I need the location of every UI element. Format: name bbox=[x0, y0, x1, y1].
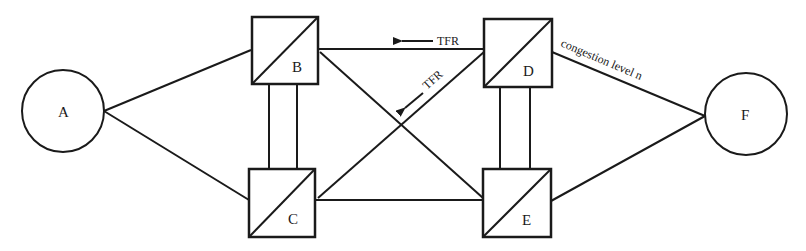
node-d-label: D bbox=[523, 63, 534, 79]
edge-a-c bbox=[104, 111, 249, 200]
edge-d-f bbox=[552, 52, 705, 116]
edge-a-b bbox=[104, 50, 251, 111]
node-f: F bbox=[705, 73, 787, 155]
tfr-label-horizontal: TFR bbox=[437, 34, 459, 48]
tfr-arrow-diagonal bbox=[405, 93, 423, 108]
node-e-label: E bbox=[522, 212, 531, 228]
diagram-svg: A B C D E F bbox=[0, 0, 806, 251]
node-e: E bbox=[483, 169, 551, 237]
edge-e-f bbox=[551, 116, 705, 201]
node-a: A bbox=[22, 70, 104, 152]
node-c: C bbox=[249, 169, 315, 237]
network-diagram: A B C D E F bbox=[0, 0, 806, 251]
node-a-label: A bbox=[58, 104, 69, 120]
node-f-label: F bbox=[741, 107, 749, 123]
node-b-label: B bbox=[292, 59, 302, 75]
node-d: D bbox=[484, 19, 552, 87]
node-c-label: C bbox=[288, 211, 298, 227]
node-b: B bbox=[252, 17, 318, 84]
